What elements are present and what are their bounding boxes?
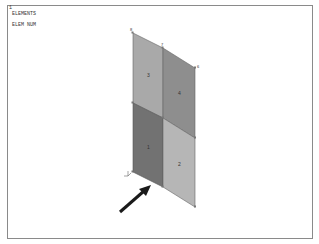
element-label-1: 1 (147, 144, 150, 150)
coordinate-triad-icon (124, 171, 131, 176)
node-label-6: 6 (197, 64, 200, 69)
fe-model-plot: 3 4 1 2 8 7 6 (0, 0, 319, 244)
node-label-7: 7 (161, 42, 164, 47)
element-label-4: 4 (178, 90, 181, 96)
annotation-arrow-icon (120, 185, 151, 212)
element-label-3: 3 (147, 72, 150, 78)
node-label-8: 8 (130, 27, 133, 32)
element-label-2: 2 (178, 161, 181, 167)
